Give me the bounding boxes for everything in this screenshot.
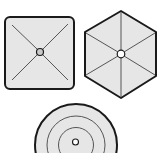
center-dot xyxy=(37,49,44,56)
circle-shape xyxy=(35,104,117,153)
shapes-diagram xyxy=(0,0,159,153)
square-shape xyxy=(5,17,74,89)
center-dot xyxy=(117,50,125,58)
center-dot xyxy=(73,139,79,145)
hexagon-shape xyxy=(85,11,156,98)
